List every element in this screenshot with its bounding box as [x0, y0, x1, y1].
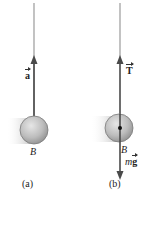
gravity-symbol: g [132, 157, 137, 167]
tension-arrow-head-icon [117, 55, 124, 64]
weight-label: mg [125, 157, 137, 167]
tension-symbol: T [126, 66, 133, 76]
acceleration-arrow-head-icon [31, 55, 38, 64]
body-label-a: B [30, 147, 36, 157]
caption-a: (a) [22, 179, 33, 189]
tension-label: T [126, 66, 133, 76]
caption-b: (b) [109, 179, 121, 189]
center-of-mass-dot [118, 126, 122, 130]
body-label-b: B [121, 145, 127, 155]
mass-symbol: m [125, 156, 132, 167]
bob-a [20, 116, 48, 144]
acceleration-symbol: a [25, 71, 30, 81]
acceleration-label: a [25, 71, 30, 81]
